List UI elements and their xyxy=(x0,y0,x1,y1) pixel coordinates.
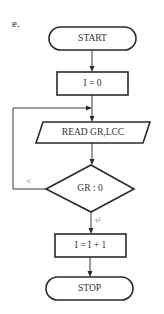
node-increment-label: I = I + 1 xyxy=(75,240,107,250)
arrow-head-icon xyxy=(88,271,93,277)
node-read-label: READ GR,LCC xyxy=(62,127,124,137)
node-start-label: START xyxy=(78,33,107,43)
arrow-head-icon xyxy=(89,228,94,234)
arrow-head-icon xyxy=(86,106,92,111)
edge-label-less-than: < xyxy=(26,176,31,186)
node-decision: GR : 0 xyxy=(46,165,134,212)
node-init-label: I = 0 xyxy=(83,78,101,88)
arrow-head-icon xyxy=(90,116,95,122)
node-decision-label: GR : 0 xyxy=(77,183,103,193)
figure-label: e. xyxy=(12,17,20,29)
node-increment: I = I + 1 xyxy=(55,234,126,257)
node-read: READ GR,LCC xyxy=(36,122,150,143)
arrow-head-icon xyxy=(90,159,95,165)
node-init: I = 0 xyxy=(57,72,128,95)
edge-label-greater-equal: ≥ xyxy=(93,215,104,224)
flowchart-diagram: e. < ≥ START I = 0 READ GR,LCC xyxy=(0,0,164,314)
node-stop: STOP xyxy=(46,277,133,300)
node-start: START xyxy=(49,27,136,50)
arrow-head-icon xyxy=(90,66,95,72)
node-stop-label: STOP xyxy=(78,283,101,293)
